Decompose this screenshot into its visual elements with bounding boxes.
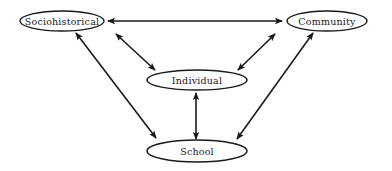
- node-individual: Individual: [147, 70, 247, 90]
- edge-community-individual: [238, 34, 275, 70]
- node-label-school: School: [180, 146, 214, 157]
- edge-sociohistorical-individual: [116, 34, 155, 70]
- node-label-community: Community: [298, 16, 356, 27]
- node-label-sociohistorical: Sociohistorical: [25, 16, 99, 27]
- node-community: Community: [287, 11, 367, 31]
- node-sociohistorical: Sociohistorical: [20, 11, 104, 31]
- node-school: School: [147, 140, 247, 162]
- edge-sociohistorical-school: [76, 33, 156, 138]
- node-label-individual: Individual: [172, 75, 222, 86]
- edge-community-school: [237, 33, 313, 139]
- relationship-diagram: Sociohistorical Community Individual Sch…: [0, 0, 392, 171]
